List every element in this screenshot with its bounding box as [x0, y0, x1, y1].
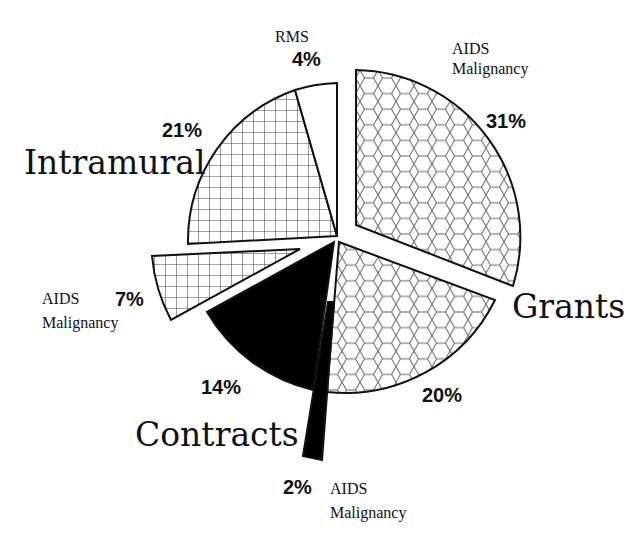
label-intramural-aids-line2: Malignancy: [42, 314, 118, 332]
pie-chart: RMS 4% AIDS Malignancy 31% Grants 20% 2%…: [0, 0, 630, 542]
pct-intramural-other: 21%: [162, 119, 202, 141]
label-grants-aids-line2: Malignancy: [452, 60, 528, 78]
pct-intramural-aids: 7%: [115, 288, 144, 310]
pct-contracts-other: 14%: [201, 376, 241, 398]
slice-grants-aids-malignancy: [356, 70, 520, 286]
label-contracts-aids-line1: AIDS: [330, 480, 367, 497]
label-intramural: Intramural: [24, 143, 206, 182]
label-grants: Grants: [512, 287, 625, 326]
label-rms: RMS: [275, 28, 309, 45]
label-grants-aids-line1: AIDS: [452, 40, 489, 57]
pct-grants-aids: 31%: [486, 110, 526, 132]
pct-contracts-aids: 2%: [283, 476, 312, 498]
label-intramural-aids-line1: AIDS: [42, 290, 79, 307]
pct-grants-other: 20%: [422, 384, 462, 406]
pct-rms: 4%: [292, 48, 321, 70]
label-contracts: Contracts: [135, 415, 299, 454]
label-contracts-aids-line2: Malignancy: [330, 504, 406, 522]
